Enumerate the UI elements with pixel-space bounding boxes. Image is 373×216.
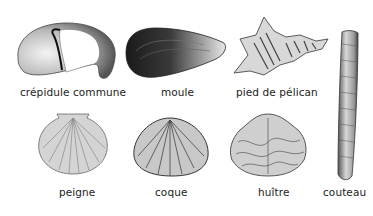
label-pied-de-pelican: pied de pélican [236, 86, 318, 98]
couteau-shell-image [336, 30, 360, 182]
crepidule-shell-image [14, 20, 120, 82]
label-moule: moule [161, 86, 194, 98]
label-huitre: huître [258, 186, 290, 198]
label-peigne: peigne [59, 186, 95, 198]
pied-de-pelican-shell-image [230, 15, 330, 81]
label-couteau: couteau [323, 186, 366, 198]
label-crepidule: crépidule commune [20, 86, 126, 98]
moule-shell-image [124, 25, 228, 81]
coque-shell-image [130, 116, 212, 178]
huitre-shell-image [228, 112, 310, 178]
peigne-shell-image [35, 110, 111, 176]
label-coque: coque [155, 186, 187, 198]
